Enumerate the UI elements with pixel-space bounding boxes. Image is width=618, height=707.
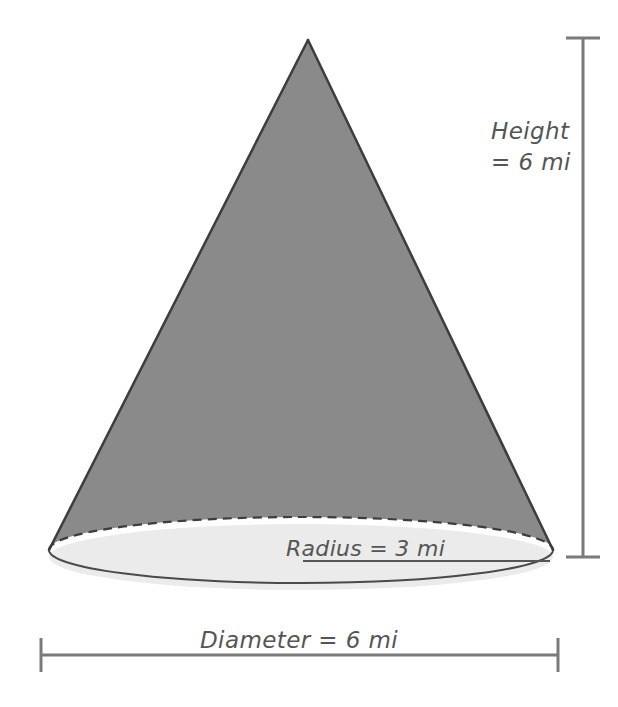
cone-diagram-svg: Height = 6 mi Radius = 3 mi Diameter = 6…	[0, 0, 618, 707]
cone-diagram-container: Height = 6 mi Radius = 3 mi Diameter = 6…	[0, 0, 618, 707]
height-label-line2: = 6 mi	[491, 149, 571, 175]
radius-label: Radius = 3 mi	[286, 536, 445, 561]
diameter-label: Diameter = 6 mi	[200, 627, 398, 653]
height-label-line1: Height	[491, 118, 570, 144]
